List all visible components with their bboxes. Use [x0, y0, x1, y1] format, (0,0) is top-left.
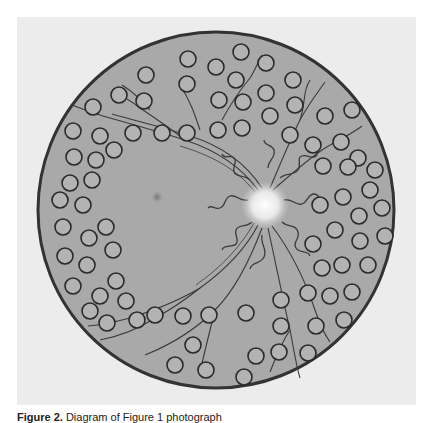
laser-spot	[300, 345, 316, 361]
laser-spot	[235, 94, 251, 110]
laser-spot	[99, 315, 115, 331]
laser-spot	[344, 102, 360, 118]
laser-spot	[81, 230, 97, 246]
laser-spot	[322, 288, 338, 304]
laser-spot	[180, 51, 196, 67]
laser-spot	[92, 288, 108, 304]
laser-spot	[285, 72, 301, 88]
laser-spot	[258, 55, 274, 71]
laser-spot	[262, 108, 278, 124]
laser-spot	[125, 125, 141, 141]
laser-spot	[305, 137, 321, 153]
laser-spot	[351, 208, 367, 224]
laser-spot	[147, 307, 163, 323]
laser-spot	[327, 222, 343, 238]
laser-spot	[201, 307, 217, 323]
laser-spot	[236, 369, 252, 385]
laser-spot	[138, 67, 154, 83]
laser-spot	[167, 357, 183, 373]
laser-spot	[234, 120, 250, 136]
laser-spot	[55, 219, 71, 235]
laser-spot	[315, 158, 331, 174]
laser-spot	[198, 362, 214, 378]
laser-spot	[273, 318, 289, 334]
fundus-circle	[38, 32, 394, 388]
caption-label: Figure 2.	[17, 411, 63, 423]
laser-spot	[314, 260, 330, 276]
laser-spot	[185, 337, 201, 353]
laser-spot	[333, 134, 349, 150]
laser-spot	[352, 233, 368, 249]
laser-spot	[118, 293, 134, 309]
laser-spot	[248, 348, 264, 364]
laser-spot	[175, 308, 191, 324]
laser-spot	[228, 72, 244, 88]
laser-spot	[88, 152, 104, 168]
laser-spot	[360, 257, 376, 273]
laser-spot	[258, 85, 274, 101]
laser-spot	[84, 172, 100, 188]
laser-spot	[82, 303, 98, 319]
laser-spot	[57, 248, 73, 264]
laser-spot	[98, 219, 114, 235]
optic-disc	[241, 181, 289, 229]
laser-spot	[65, 123, 81, 139]
laser-spot	[208, 59, 224, 75]
laser-spot	[273, 292, 289, 308]
laser-spot	[154, 125, 170, 141]
laser-spot	[271, 344, 287, 360]
laser-spot	[106, 142, 122, 158]
laser-spot	[66, 149, 82, 165]
laser-spot	[300, 285, 316, 301]
laser-spot	[335, 189, 351, 205]
laser-spot	[75, 197, 91, 213]
laser-spot	[317, 108, 333, 124]
laser-spot	[233, 44, 249, 60]
laser-spot	[362, 182, 378, 198]
laser-spot	[92, 128, 108, 144]
laser-spot	[129, 312, 145, 328]
laser-spot	[238, 305, 254, 321]
laser-spot	[336, 312, 352, 328]
laser-spot	[108, 273, 124, 289]
figure-caption: Figure 2. Diagram of Figure 1 photograph	[17, 411, 222, 423]
laser-spot	[85, 99, 101, 115]
laser-spot	[374, 200, 390, 216]
laser-spot	[340, 159, 356, 175]
laser-spot	[377, 228, 393, 244]
laser-spot	[312, 197, 328, 213]
laser-spot	[179, 125, 195, 141]
laser-spot	[62, 175, 78, 191]
laser-spot	[179, 76, 195, 92]
laser-spot	[65, 278, 81, 294]
laser-spot	[211, 92, 227, 108]
laser-spot	[344, 284, 360, 300]
caption-text: Diagram of Figure 1 photograph	[66, 411, 222, 423]
laser-spot	[52, 192, 68, 208]
laser-spot	[287, 97, 303, 113]
laser-spot	[79, 257, 95, 273]
laser-spot	[334, 257, 350, 273]
laser-spot	[282, 127, 298, 143]
laser-spot	[105, 242, 121, 258]
laser-spot	[111, 87, 127, 103]
laser-spot	[136, 93, 152, 109]
laser-spot	[308, 318, 324, 334]
laser-spot	[367, 162, 383, 178]
laser-spot	[210, 122, 226, 138]
laser-spot	[305, 236, 321, 252]
macula	[150, 190, 164, 204]
